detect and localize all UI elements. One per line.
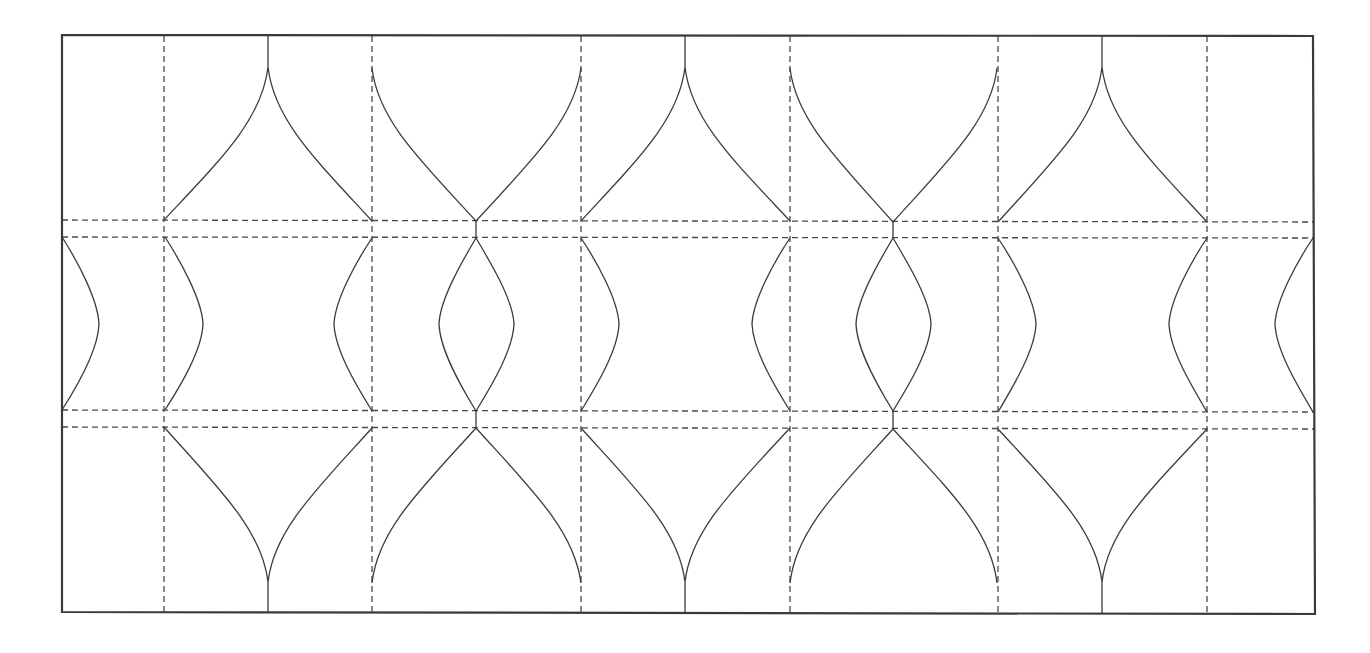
top-row-arches	[164, 35, 1207, 222]
dashed-vertical-guides	[164, 36, 1207, 614]
top-row-cups	[372, 68, 997, 222]
bottom-arch-3	[998, 429, 1207, 582]
lens-1	[439, 238, 514, 411]
middle-row-lenses	[439, 238, 931, 411]
top-cup-2	[790, 68, 997, 222]
bottom-cup-2	[790, 429, 997, 583]
side-bulge-998-right	[998, 238, 1036, 412]
lens-2	[856, 238, 931, 411]
edge-bulge-right	[1275, 238, 1313, 412]
guide-horizontal-4	[62, 427, 1314, 429]
bottom-row-cups	[372, 428, 997, 583]
edge-bulge-left	[62, 237, 99, 410]
top-arch-2	[581, 67, 790, 221]
outer-frame	[62, 35, 1315, 614]
bottom-row-arches	[164, 427, 1207, 614]
side-bulge-1207-left	[1169, 238, 1207, 412]
guide-horizontal-3	[62, 410, 1314, 412]
top-cup-1	[372, 68, 581, 221]
side-bulge-581-right	[581, 238, 619, 411]
guide-horizontal-2	[62, 237, 1313, 238]
side-bulge-790-left	[752, 238, 790, 411]
bottom-cup-1	[372, 428, 581, 583]
guide-horizontal-1	[62, 220, 1313, 222]
pattern-diagram	[0, 0, 1370, 653]
bottom-arch-1	[164, 427, 372, 582]
bottom-arch-2	[581, 428, 790, 582]
middle-row-concave-sides	[62, 237, 1313, 412]
top-arch-3	[998, 67, 1207, 222]
side-bulge-164	[165, 237, 203, 410]
top-arch-1	[164, 67, 372, 221]
middle-connectors	[476, 221, 893, 428]
side-bulge-372-left	[334, 238, 372, 411]
dashed-horizontal-guides	[62, 220, 1314, 429]
